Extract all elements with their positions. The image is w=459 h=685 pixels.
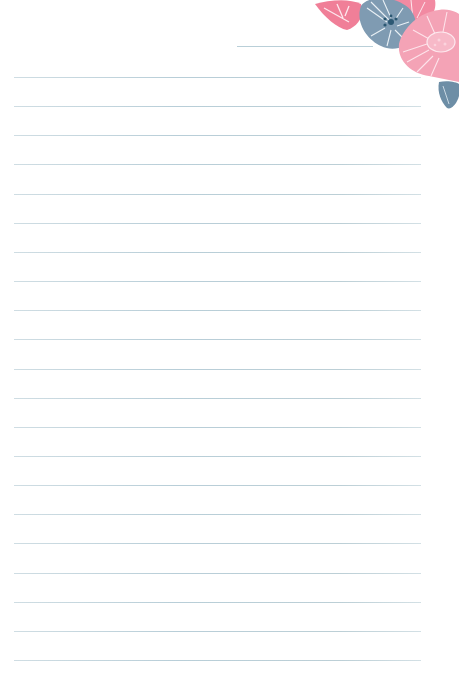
floral-corner-decoration — [299, 0, 459, 115]
ruled-line — [14, 135, 421, 136]
ruled-line — [14, 164, 421, 165]
ruled-line — [14, 339, 421, 340]
ruled-line — [14, 310, 421, 311]
flower-icon — [299, 0, 459, 115]
ruled-line — [14, 514, 421, 515]
ruled-line — [14, 543, 421, 544]
ruled-line — [14, 369, 421, 370]
ruled-line — [14, 194, 421, 195]
ruled-line — [14, 660, 421, 661]
ruled-line — [14, 573, 421, 574]
ruled-line — [14, 281, 421, 282]
ruled-line — [14, 631, 421, 632]
ruled-line — [14, 252, 421, 253]
ruled-line — [14, 485, 421, 486]
ruled-line — [14, 398, 421, 399]
ruled-line — [14, 602, 421, 603]
ruled-line — [14, 223, 421, 224]
ruled-line — [14, 456, 421, 457]
lined-paper — [0, 0, 459, 685]
ruled-line — [14, 427, 421, 428]
